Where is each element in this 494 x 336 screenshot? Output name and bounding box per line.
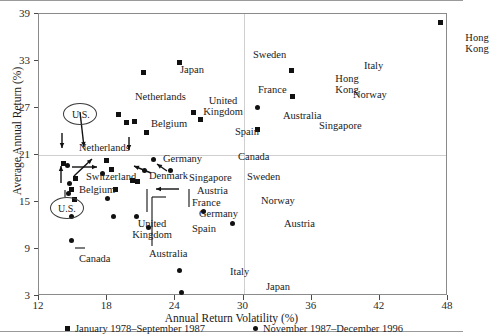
data-point-square	[116, 112, 121, 117]
y-tick-label: 33	[2, 55, 30, 66]
x-tick-label: 24	[159, 300, 189, 311]
point-label: France	[258, 85, 287, 96]
data-point-square	[198, 117, 203, 122]
y-tick-label: 15	[2, 196, 30, 207]
point-label: Netherlands	[135, 92, 186, 103]
data-point-square	[124, 120, 129, 125]
point-label: Singapore	[189, 173, 232, 184]
legend: January 1978–September 1987 November 198…	[0, 322, 463, 336]
legend-circle-marker-icon	[253, 326, 258, 331]
data-point-square	[290, 94, 295, 99]
data-point-circle	[66, 191, 71, 196]
annotation-arrow	[59, 166, 63, 183]
point-label: Japan	[266, 282, 290, 293]
data-point-square	[438, 20, 443, 25]
data-point-circle	[255, 105, 260, 110]
data-point-square	[141, 70, 146, 75]
point-label: Germany	[199, 209, 238, 220]
legend-square-marker-icon	[65, 326, 70, 331]
point-label: Sweden	[247, 172, 280, 183]
x-tick-label: 48	[432, 300, 462, 311]
point-label: Australia	[149, 249, 188, 260]
legend-item-circle: November 1987–December 1996	[253, 323, 403, 334]
data-point-circle	[179, 290, 184, 295]
data-point-square	[132, 119, 137, 124]
point-label: Spain	[235, 127, 259, 138]
x-tick-label: 30	[228, 300, 258, 311]
legend-label-period-2: November 1987–December 1996	[263, 323, 403, 334]
us-lower-callout-label: U.S.	[58, 204, 76, 214]
point-label: Switzerland	[86, 172, 136, 183]
data-point-circle	[67, 181, 72, 186]
x-tick-label: 42	[364, 300, 394, 311]
point-label: Australia	[283, 111, 322, 122]
point-label: Norway	[261, 196, 295, 207]
x-tick-label: 12	[23, 300, 53, 311]
data-point-square	[73, 176, 78, 181]
data-point-square	[191, 110, 196, 115]
point-label: Denmark	[149, 171, 188, 182]
point-label: Austria	[284, 219, 315, 230]
point-label: Hong Kong	[324, 73, 370, 95]
x-tick-label: 36	[296, 300, 326, 311]
y-tick-label: 21	[2, 149, 30, 160]
plot-area: NetherlandsSwitzerlandBelgiumGermanyDenm…	[38, 13, 447, 295]
annotation-arrow	[156, 187, 179, 191]
point-label: Belgium	[151, 119, 187, 130]
data-point-square	[144, 130, 149, 135]
top-rule	[0, 0, 463, 1]
point-label: Canada	[79, 254, 111, 265]
point-label: Canada	[238, 152, 270, 163]
point-label: Netherlands	[79, 142, 125, 153]
point-label: Germany	[163, 154, 202, 165]
point-label: Hong Kong	[454, 32, 494, 54]
point-label: Austria	[197, 186, 228, 197]
y-tick-label: 27	[2, 102, 30, 113]
point-label: Japan	[180, 65, 204, 76]
y-axis-label: Average Annual Return (%)	[11, 46, 23, 216]
data-point-circle	[105, 196, 110, 201]
point-label: France	[192, 198, 221, 209]
point-label: Sweden	[253, 50, 286, 61]
point-label: Singapore	[319, 121, 362, 132]
point-label: Italy	[364, 61, 383, 72]
annotation-arrow	[60, 133, 64, 148]
data-point-square	[104, 158, 109, 163]
point-label: Italy	[230, 267, 249, 278]
legend-item-square: January 1978–September 1987	[65, 323, 205, 334]
x-tick-label: 18	[91, 300, 121, 311]
data-point-square	[289, 68, 294, 73]
legend-label-period-1: January 1978–September 1987	[75, 323, 205, 334]
us-upper-callout-label: U.S.	[72, 110, 90, 120]
point-label: United Kingdom	[200, 95, 246, 117]
y-tick-label: 39	[2, 8, 30, 19]
y-tick-label: 9	[2, 243, 30, 254]
point-label: Belgium	[79, 185, 115, 196]
point-label: Spain	[192, 224, 216, 235]
point-label: United Kingdom	[129, 218, 175, 240]
